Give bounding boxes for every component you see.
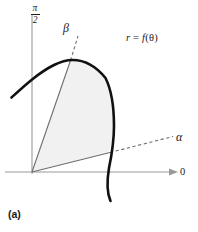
polar-axis-arrowhead	[169, 169, 178, 176]
figure-canvas	[0, 0, 198, 232]
ray-alpha-dashed	[110, 137, 173, 153]
equation-equals: =	[130, 32, 142, 43]
figure-caption: (a)	[8, 209, 21, 220]
vertical-axis-label-numerator: π	[24, 4, 46, 14]
polar-equation-label: r = f(θ)	[126, 33, 158, 44]
vertical-axis-label-denominator: 2	[24, 16, 46, 26]
polar-area-figure: π 2 β α r = f(θ) 0 (a)	[0, 0, 198, 232]
polar-axis-label: 0	[180, 167, 185, 178]
shaded-region	[32, 61, 114, 172]
ray-alpha-label: α	[176, 131, 182, 143]
ray-beta-label: β	[63, 22, 69, 34]
equation-close-paren: )	[154, 32, 158, 43]
ray-beta-dashed	[71, 36, 79, 61]
vertical-axis-label: π 2	[24, 4, 46, 26]
